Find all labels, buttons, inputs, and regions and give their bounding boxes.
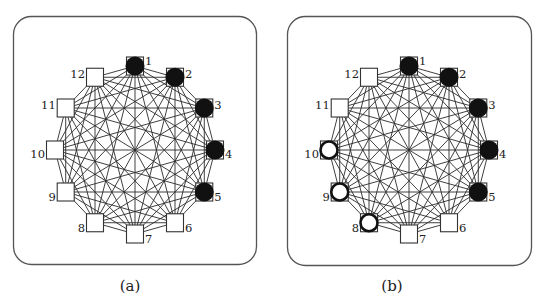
node-label: 2 — [185, 67, 192, 81]
node-square — [47, 141, 64, 159]
panel-a: 123456789101112 — [14, 17, 257, 265]
node-square — [57, 183, 74, 201]
panel-b-caption: (b) — [381, 277, 402, 295]
figure-canvas: 123456789101112 (a) 123456789101112 (b) — [0, 0, 539, 304]
node-label: 6 — [459, 221, 466, 235]
node-square — [441, 214, 458, 232]
node-label: 5 — [214, 190, 221, 204]
panel-a-caption: (a) — [120, 277, 141, 295]
node-label: 12 — [344, 67, 359, 81]
node-label: 8 — [352, 221, 359, 235]
white-disc-icon — [321, 142, 338, 159]
node-label: 9 — [48, 190, 55, 204]
black-disc-icon — [126, 57, 145, 76]
node-label: 12 — [70, 67, 85, 81]
black-disc-icon — [195, 99, 214, 118]
node-square — [401, 225, 418, 243]
node-square — [87, 214, 104, 232]
node-square — [87, 68, 104, 86]
node-square — [361, 68, 378, 86]
node-label: 10 — [30, 147, 45, 161]
black-disc-icon — [206, 141, 225, 160]
black-disc-icon — [480, 141, 499, 160]
node-label: 7 — [419, 232, 426, 246]
node-square — [127, 225, 144, 243]
node-label: 2 — [459, 67, 466, 81]
node-label: 9 — [322, 190, 329, 204]
black-disc-icon — [469, 183, 488, 202]
black-disc-icon — [166, 68, 185, 87]
node-square — [57, 99, 74, 117]
node-label: 10 — [304, 147, 319, 161]
black-disc-icon — [440, 68, 459, 87]
white-disc-icon — [331, 184, 348, 201]
black-disc-icon — [400, 57, 419, 76]
node-label: 1 — [419, 54, 426, 68]
node-label: 5 — [488, 190, 495, 204]
node-label: 11 — [315, 98, 330, 112]
node-label: 8 — [78, 221, 85, 235]
node-square — [167, 214, 184, 232]
node-label: 4 — [499, 147, 506, 161]
node-label: 6 — [185, 221, 192, 235]
node-label: 1 — [145, 54, 152, 68]
node-label: 3 — [488, 98, 495, 112]
black-disc-icon — [195, 183, 214, 202]
white-disc-icon — [361, 214, 378, 231]
panel-b: 123456789101112 — [288, 17, 532, 266]
node-label: 11 — [41, 98, 56, 112]
black-disc-icon — [469, 99, 488, 118]
node-square — [331, 99, 348, 117]
node-label: 4 — [225, 147, 232, 161]
node-label: 3 — [214, 98, 221, 112]
node-label: 7 — [145, 232, 152, 246]
